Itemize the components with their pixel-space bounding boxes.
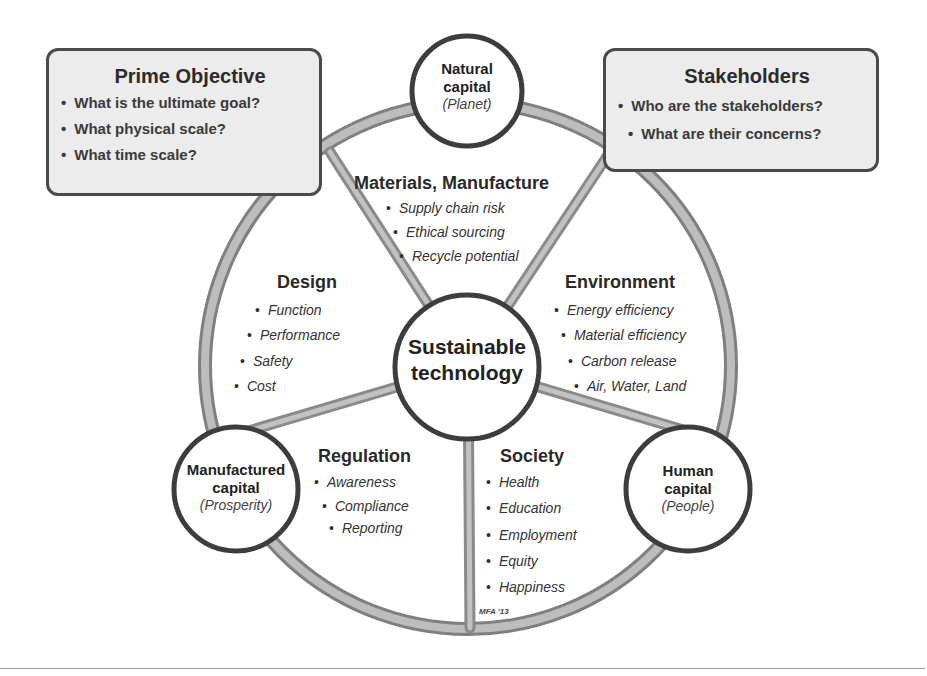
manufactured-capital-label: Manufactured capital (Prosperity)	[171, 461, 301, 513]
prime-objective-box: Prime Objective What is the ultimate goa…	[46, 48, 322, 196]
regulation-title: Regulation	[318, 446, 411, 467]
environment-item: Energy efficiency	[554, 302, 674, 318]
human-capital-line2: capital	[633, 480, 743, 498]
society-item: Happiness	[486, 579, 565, 595]
natural-capital-line2: capital	[412, 78, 522, 96]
prime-objective-item: What time scale?	[61, 142, 319, 168]
society-title: Society	[500, 446, 564, 467]
bottom-divider	[0, 668, 925, 669]
prime-objective-title: Prime Objective	[61, 65, 319, 88]
regulation-item: Reporting	[329, 520, 403, 536]
society-item: Equity	[486, 553, 538, 569]
environment-item: Material efficiency	[561, 327, 686, 343]
design-item: Function	[255, 302, 322, 318]
design-item: Cost	[234, 378, 276, 394]
society-item: Health	[486, 474, 539, 490]
natural-capital-label: Natural capital (Planet)	[412, 60, 522, 112]
design-item: Performance	[247, 327, 340, 343]
design-title: Design	[277, 272, 337, 293]
center-line2: technology	[395, 360, 539, 386]
manufactured-capital-line1: Manufactured	[171, 461, 301, 479]
center-line1: Sustainable	[395, 334, 539, 360]
stakeholders-item: What are their concerns?	[618, 120, 876, 148]
human-capital-label: Human capital (People)	[633, 462, 743, 514]
human-capital-line1: Human	[633, 462, 743, 480]
materials-item: Recycle potential	[399, 248, 519, 264]
stakeholders-box: Stakeholders Who are the stakeholders? W…	[603, 48, 879, 172]
manufactured-capital-sub: (Prosperity)	[171, 497, 301, 513]
natural-capital-sub: (Planet)	[412, 96, 522, 112]
prime-objective-item: What physical scale?	[61, 116, 319, 142]
human-capital-sub: (People)	[633, 498, 743, 514]
stakeholders-title: Stakeholders	[618, 65, 876, 88]
natural-capital-line1: Natural	[412, 60, 522, 78]
society-item: Employment	[486, 527, 577, 543]
regulation-item: Compliance	[322, 498, 409, 514]
center-label: Sustainable technology	[395, 334, 539, 386]
environment-item: Air, Water, Land	[574, 378, 686, 394]
society-item: Education	[486, 500, 561, 516]
prime-objective-item: What is the ultimate goal?	[61, 90, 319, 116]
environment-item: Carbon release	[568, 353, 677, 369]
environment-title: Environment	[565, 272, 675, 293]
materials-item: Ethical sourcing	[393, 224, 505, 240]
manufactured-capital-line2: capital	[171, 479, 301, 497]
regulation-item: Awareness	[314, 474, 396, 490]
design-item: Safety	[240, 353, 293, 369]
materials-title: Materials, Manufacture	[354, 173, 549, 194]
materials-item: Supply chain risk	[386, 200, 505, 216]
stakeholders-item: Who are the stakeholders?	[618, 92, 876, 120]
credit-label: MFA '13	[479, 607, 509, 616]
